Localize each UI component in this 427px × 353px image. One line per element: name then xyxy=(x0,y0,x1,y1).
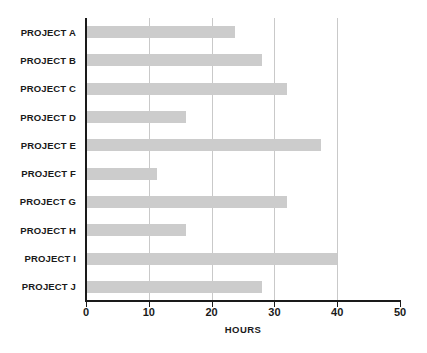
category-label: PROJECT G xyxy=(20,196,80,207)
y-axis-tick-label: PROJECT B xyxy=(0,46,80,74)
bar[interactable] xyxy=(86,168,157,180)
bar-row xyxy=(86,18,400,46)
y-axis-tick-label: PROJECT H xyxy=(0,216,80,244)
category-label: PROJECT D xyxy=(20,112,80,123)
y-axis-tick-label: PROJECT J xyxy=(0,273,80,301)
bar[interactable] xyxy=(86,26,235,38)
y-axis-labels: PROJECT APROJECT BPROJECT CPROJECT DPROJ… xyxy=(0,18,80,301)
category-label: PROJECT J xyxy=(22,281,80,292)
y-axis-tick-label: PROJECT A xyxy=(0,18,80,46)
bar[interactable] xyxy=(86,83,287,95)
bar-row xyxy=(86,131,400,159)
category-label: PROJECT I xyxy=(25,253,81,264)
bar-chart: PROJECT APROJECT BPROJECT CPROJECT DPROJ… xyxy=(0,0,427,353)
bar-row xyxy=(86,160,400,188)
bar[interactable] xyxy=(86,253,337,265)
x-axis-title: HOURS xyxy=(86,324,400,335)
plot-area xyxy=(86,18,400,301)
bar-row xyxy=(86,244,400,272)
bar-row xyxy=(86,216,400,244)
x-axis-line xyxy=(85,300,401,302)
category-label: PROJECT F xyxy=(21,168,80,179)
y-axis-tick-label: PROJECT G xyxy=(0,188,80,216)
x-tick-label: 10 xyxy=(143,306,155,318)
bar[interactable] xyxy=(86,281,262,293)
bar-row xyxy=(86,75,400,103)
bar-row xyxy=(86,188,400,216)
y-axis-tick-label: PROJECT I xyxy=(0,244,80,272)
bar[interactable] xyxy=(86,196,287,208)
category-label: PROJECT H xyxy=(20,225,80,236)
category-label: PROJECT A xyxy=(21,27,80,38)
x-tick-label: 30 xyxy=(268,306,280,318)
y-axis-tick-label: PROJECT E xyxy=(0,131,80,159)
bar-row xyxy=(86,273,400,301)
x-tick-label: 50 xyxy=(394,306,406,318)
bar[interactable] xyxy=(86,224,186,236)
y-axis-tick-label: PROJECT D xyxy=(0,103,80,131)
y-axis-tick-label: PROJECT F xyxy=(0,160,80,188)
x-tick-label: 0 xyxy=(83,306,89,318)
category-label: PROJECT E xyxy=(21,140,80,151)
bar[interactable] xyxy=(86,54,262,66)
bar[interactable] xyxy=(86,111,186,123)
category-label: PROJECT C xyxy=(20,83,80,94)
bar-row xyxy=(86,103,400,131)
y-axis-tick-label: PROJECT C xyxy=(0,75,80,103)
y-axis-line xyxy=(85,18,87,301)
bar[interactable] xyxy=(86,139,321,151)
category-label: PROJECT B xyxy=(20,55,80,66)
x-tick-label: 40 xyxy=(331,306,343,318)
bar-row xyxy=(86,46,400,74)
x-tick-label: 20 xyxy=(205,306,217,318)
